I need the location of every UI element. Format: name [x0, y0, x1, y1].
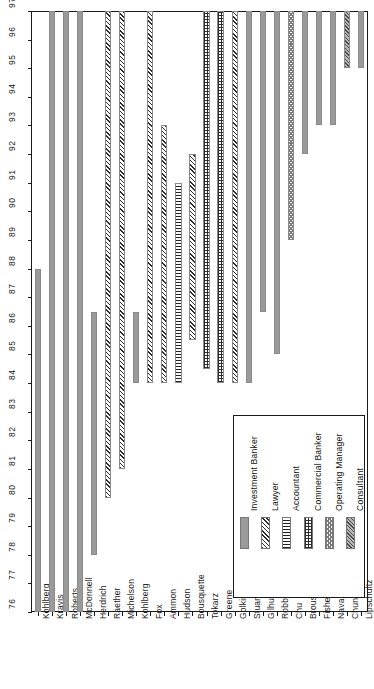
legend-label: Consultant [355, 468, 365, 511]
x-axis-tick [235, 612, 236, 616]
x-axis-tick [291, 612, 292, 616]
bar-kohlberg-7 [133, 312, 139, 384]
y-axis-tick [28, 269, 32, 270]
legend-entry: Consultant [346, 416, 367, 597]
y-axis-tick [28, 240, 32, 241]
y-axis-tick [28, 11, 32, 12]
x-axis-category-label: Kohlberg [140, 583, 150, 619]
bar-roberts-2 [63, 11, 69, 612]
bar-chu-18 [288, 11, 294, 240]
x-axis-category-label: Stuart [252, 595, 262, 619]
x-axis-tick [207, 612, 208, 616]
x-axis-tick [361, 612, 362, 616]
bar-brous-19 [302, 11, 308, 154]
legend-swatch-law [261, 517, 270, 549]
legend-label: Lawyer [270, 482, 280, 511]
y-axis-tick-label: 96 [8, 26, 17, 52]
bar-gilhuly-16 [260, 11, 266, 312]
y-axis-tick [28, 555, 32, 556]
bar-greene-13 [217, 11, 223, 383]
y-axis-tick-label: 91 [8, 169, 17, 195]
x-axis-tick [249, 612, 250, 616]
bar-stuart-15 [246, 11, 252, 383]
y-axis-tick-label: 92 [8, 141, 17, 167]
y-axis-tick-label: 95 [8, 55, 17, 81]
bar-chung-22 [344, 11, 350, 68]
x-axis-category-label: Tokarz [210, 593, 220, 619]
x-axis-tick [108, 612, 109, 616]
x-axis-tick [263, 612, 264, 616]
y-axis-tick-label: 78 [8, 541, 17, 567]
x-axis-category-label: McDonnell [84, 577, 94, 619]
x-axis-tick [164, 612, 165, 616]
y-axis-tick [28, 326, 32, 327]
x-axis-tick [122, 612, 123, 616]
y-axis-tick [28, 469, 32, 470]
bar-tokarz-12 [203, 11, 209, 369]
legend-entry: Operating Manager [325, 416, 346, 597]
legend-entry: Lawyer [261, 416, 282, 597]
x-axis-tick [333, 612, 334, 616]
y-axis-tick [28, 183, 32, 184]
x-axis-category-label: Herdrich [98, 585, 108, 619]
x-axis-tick [94, 612, 95, 616]
x-axis-tick [178, 612, 179, 616]
x-axis-tick [277, 612, 278, 616]
y-axis-tick [28, 68, 32, 69]
x-axis-tick [66, 612, 67, 616]
x-axis-tick [38, 612, 39, 616]
x-axis-category-label: Michelson [126, 579, 136, 619]
x-axis-category-label: Raether [112, 587, 122, 619]
legend-label: Accountant [291, 466, 301, 511]
legend-label: Operating Manager [334, 434, 344, 511]
y-axis-tick [28, 612, 32, 613]
x-axis-tick [136, 612, 137, 616]
y-axis-tick-label: 90 [8, 198, 17, 224]
legend: Investment BankerLawyerAccountantCommerc… [233, 415, 365, 598]
bar-mcdonnell-3 [77, 11, 83, 612]
x-axis-tick [305, 612, 306, 616]
y-axis-tick [28, 440, 32, 441]
x-axis-tick [192, 612, 193, 616]
legend-swatch-ib [240, 517, 249, 549]
x-axis-tick [319, 612, 320, 616]
y-axis-tick [28, 125, 32, 126]
y-axis-tick-label: 86 [8, 312, 17, 338]
bar-michelson-6 [119, 11, 125, 469]
y-axis-tick-label: 76 [8, 599, 17, 625]
x-axis-tick [347, 612, 348, 616]
y-axis-tick-label: 97 [8, 0, 17, 24]
y-axis-tick-label: 79 [8, 513, 17, 539]
bar-robbins-17 [274, 11, 280, 354]
y-axis-tick [28, 412, 32, 413]
y-axis-tick-label: 81 [8, 455, 17, 481]
legend-swatch-om [325, 517, 334, 549]
x-axis-category-label: Brous [308, 596, 318, 619]
legend-label: Commercial Banker [313, 432, 323, 511]
legend-swatch-acct [282, 517, 291, 549]
y-axis-tick [28, 211, 32, 212]
y-axis-tick-label: 88 [8, 255, 17, 281]
y-axis-tick [28, 40, 32, 41]
legend-entry: Investment Banker [240, 416, 261, 597]
bar-kravis-1 [49, 11, 55, 612]
y-axis-tick [28, 354, 32, 355]
x-axis-category-label: Chu [294, 603, 304, 619]
y-axis-tick-label: 89 [8, 226, 17, 252]
y-axis-tick-label: 93 [8, 112, 17, 138]
x-axis-tick [52, 612, 53, 616]
legend-label: Investment Banker [249, 436, 259, 511]
y-axis-tick-label: 82 [8, 427, 17, 453]
bar-golkin-14 [232, 11, 238, 383]
y-axis-tick-label: 94 [8, 83, 17, 109]
bar-kohlberg-0 [35, 269, 41, 612]
x-axis-tick [80, 612, 81, 616]
bar-ammon-9 [161, 125, 167, 383]
bar-lipschultz-23 [358, 11, 364, 68]
y-axis-tick [28, 583, 32, 584]
y-axis-tick-label: 84 [8, 370, 17, 396]
bar-hudson-10 [175, 183, 181, 383]
bar-fox-8 [147, 11, 153, 383]
y-axis-tick-label: 83 [8, 398, 17, 424]
